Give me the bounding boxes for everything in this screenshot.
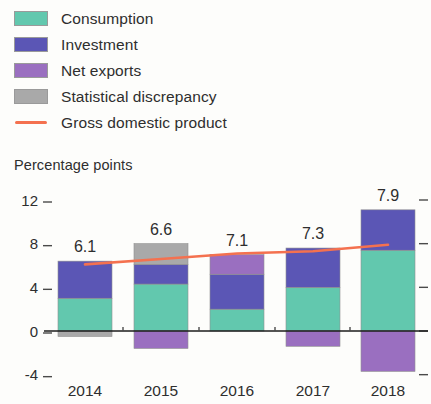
y-tick-label--4: -4 bbox=[25, 366, 38, 383]
legend-item-statistical-discrepancy: Statistical discrepancy bbox=[14, 84, 227, 109]
bar-segment-2018-net-exports bbox=[361, 331, 415, 371]
right-tick-marks bbox=[419, 200, 428, 375]
bar-segments bbox=[58, 210, 415, 372]
x-tick-label-2015: 2015 bbox=[144, 382, 178, 399]
bar-segment-2014-investment bbox=[58, 261, 112, 298]
x-tick-marks bbox=[123, 327, 350, 331]
x-tick-label-2018: 2018 bbox=[371, 382, 405, 399]
legend-swatch-investment bbox=[14, 37, 48, 52]
bar-value-label-2014: 6.1 bbox=[74, 238, 96, 255]
bar-segment-2017-consumption bbox=[286, 287, 340, 331]
bar-segment-2014-statistical-discrepancy bbox=[58, 331, 112, 336]
bar-segment-2016-consumption bbox=[210, 309, 264, 331]
y-axis-title: Percentage points bbox=[14, 157, 133, 173]
gdp-line-series bbox=[85, 245, 388, 265]
legend-label-net-exports: Net exports bbox=[61, 62, 141, 80]
chart-legend: Consumption Investment Net exports Stati… bbox=[14, 6, 227, 135]
bar-value-labels: 6.16.67.17.37.9 bbox=[74, 187, 399, 255]
bar-segment-2014-consumption bbox=[58, 298, 112, 331]
y-tick-label-12: 12 bbox=[21, 192, 38, 209]
y-tick-marks bbox=[43, 202, 52, 377]
legend-item-gross-domestic-product: Gross domestic product bbox=[14, 110, 227, 135]
bar-segment-2015-investment bbox=[134, 264, 188, 284]
x-tick-labels: 20142015201620172018 bbox=[68, 382, 405, 399]
legend-swatch-statistical-discrepancy bbox=[14, 89, 48, 104]
bar-segment-2018-consumption bbox=[361, 250, 415, 331]
bar-segment-2015-consumption bbox=[134, 284, 188, 331]
y-tick-label-0: 0 bbox=[30, 323, 38, 340]
gdp-line-path bbox=[85, 245, 388, 265]
bar-segment-2018-investment bbox=[361, 210, 415, 250]
x-tick-label-2014: 2014 bbox=[68, 382, 103, 399]
bar-segment-2016-net-exports bbox=[210, 255, 264, 275]
legend-line-marker-gross-domestic-product bbox=[14, 115, 48, 130]
legend-label-statistical-discrepancy: Statistical discrepancy bbox=[61, 88, 217, 106]
y-tick-label-4: 4 bbox=[30, 279, 38, 296]
legend-item-consumption: Consumption bbox=[14, 6, 227, 31]
legend-label-consumption: Consumption bbox=[61, 10, 153, 28]
bar-value-label-2018: 7.9 bbox=[377, 187, 399, 204]
legend-label-gross-domestic-product: Gross domestic product bbox=[61, 114, 227, 132]
legend-swatch-net-exports bbox=[14, 63, 48, 78]
bar-segment-2015-statistical-discrepancy bbox=[134, 244, 188, 265]
legend-swatch-consumption bbox=[14, 11, 48, 26]
x-tick-label-2016: 2016 bbox=[220, 382, 254, 399]
bar-value-label-2015: 6.6 bbox=[150, 221, 172, 238]
x-tick-label-2017: 2017 bbox=[296, 382, 330, 399]
bar-segment-2016-investment bbox=[210, 274, 264, 309]
legend-label-investment: Investment bbox=[61, 36, 138, 54]
legend-item-investment: Investment bbox=[14, 32, 227, 57]
bar-segment-2015-net-exports bbox=[134, 331, 188, 348]
bar-value-label-2016: 7.1 bbox=[226, 232, 248, 249]
legend-item-net-exports: Net exports bbox=[14, 58, 227, 83]
y-tick-label-8: 8 bbox=[30, 235, 38, 252]
y-tick-labels: -404812 bbox=[21, 192, 38, 384]
bar-segment-2017-net-exports bbox=[286, 331, 340, 346]
bar-value-label-2017: 7.3 bbox=[302, 225, 324, 242]
bar-segment-2017-investment bbox=[286, 248, 340, 287]
